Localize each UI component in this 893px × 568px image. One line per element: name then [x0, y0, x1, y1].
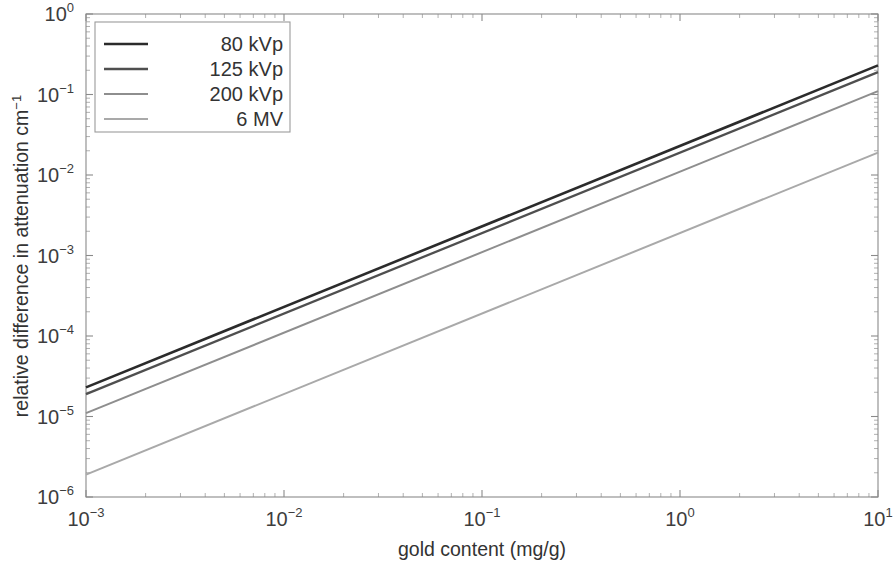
y-tick-label: 10−5	[37, 403, 74, 428]
legend-label-6-mv: 6 MV	[236, 108, 283, 130]
y-axis-label: relative difference in attenuation cm−1	[9, 95, 32, 417]
x-tick-label: 10−3	[67, 505, 104, 530]
x-tick-label: 10−1	[463, 505, 500, 530]
x-tick-label: 100	[665, 505, 694, 530]
y-tick-label: 10−2	[37, 161, 74, 186]
log-log-line-chart: 10−310−210−1100101 10010−110−210−310−410…	[0, 0, 893, 568]
x-tick-label: 101	[863, 505, 892, 530]
svg-text:relative difference in attenua: relative difference in attenuation cm−1	[9, 95, 32, 417]
y-tick-label: 10−4	[37, 322, 74, 347]
x-tick-labels: 10−310−210−1100101	[67, 505, 892, 530]
legend: 80 kVp125 kVp200 kVp6 MV	[95, 22, 290, 132]
y-tick-label: 10−6	[37, 483, 74, 508]
y-tick-labels: 10010−110−210−310−410−510−6	[37, 0, 74, 508]
legend-label-80-kvp: 80 kVp	[221, 33, 283, 55]
chart-figure: 10−310−210−1100101 10010−110−210−310−410…	[0, 0, 893, 568]
x-tick-label: 10−2	[265, 505, 302, 530]
y-tick-label: 100	[45, 0, 74, 25]
y-tick-label: 10−3	[37, 242, 74, 267]
x-axis-label: gold content (mg/g)	[398, 538, 566, 560]
legend-label-125-kvp: 125 kVp	[210, 58, 283, 80]
legend-label-200-kvp: 200 kVp	[210, 83, 283, 105]
y-tick-label: 10−1	[37, 81, 74, 106]
